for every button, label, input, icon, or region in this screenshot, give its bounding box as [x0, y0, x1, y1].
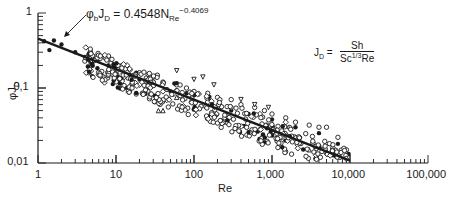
y-tick-label: 0,01: [7, 155, 28, 167]
x-tick-label: 10: [110, 168, 122, 180]
x-axis-label: Re: [218, 182, 232, 194]
x-tick-label: 1,000: [257, 168, 285, 180]
fit-equation: φbJD = 0.4548NRe−0.4069: [86, 6, 208, 23]
x-tick-label: 10,000: [331, 168, 365, 180]
x-tick-label: 100,000: [406, 168, 446, 180]
axes: [38, 13, 428, 163]
chart-plot: [0, 0, 458, 201]
x-tick-label: 1: [35, 168, 41, 180]
y-tick-label: 1: [26, 5, 32, 17]
fit-line: [38, 15, 350, 161]
jd-definition: JD = Sh Sc1/3Re: [340, 40, 374, 64]
x-tick-label: 100: [185, 168, 203, 180]
y-axis-label: φJD: [6, 82, 21, 100]
